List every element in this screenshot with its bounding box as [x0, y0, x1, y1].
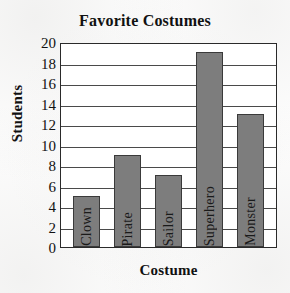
bar-pirate: Pirate — [114, 155, 141, 247]
y-tick-label: 6 — [49, 179, 57, 194]
y-tick-label: 12 — [41, 118, 56, 133]
y-tick-label: 0 — [49, 241, 57, 256]
bar-series: ClownPirateSailorSuperheroMonster — [61, 44, 276, 247]
y-tick-label: 20 — [41, 36, 56, 51]
y-tick-label: 8 — [49, 159, 57, 174]
y-tick-label: 2 — [49, 220, 57, 235]
bar-category-label: Sailor — [161, 207, 177, 246]
x-axis-title: Costume — [60, 262, 277, 279]
bar-clown: Clown — [73, 196, 100, 247]
bar-category-label: Monster — [243, 193, 259, 246]
y-tick-label: 10 — [41, 138, 56, 153]
y-tick-label: 14 — [41, 97, 56, 112]
chart-title: Favorite Costumes — [0, 12, 290, 30]
bar-superhero: Superhero — [196, 52, 223, 247]
plot-area: ClownPirateSailorSuperheroMonster — [60, 43, 277, 248]
y-axis-title: Students — [9, 69, 26, 159]
y-tick-label: 4 — [49, 200, 57, 215]
y-axis-tick-labels: 02468101214161820 — [24, 43, 56, 248]
bar-monster: Monster — [237, 114, 264, 247]
bar-sailor: Sailor — [155, 175, 182, 247]
bar-category-label: Pirate — [120, 208, 136, 246]
y-tick-label: 16 — [41, 77, 56, 92]
y-tick-label: 18 — [41, 56, 56, 71]
bar-category-label: Clown — [79, 203, 95, 246]
bar-category-label: Superhero — [202, 182, 218, 246]
